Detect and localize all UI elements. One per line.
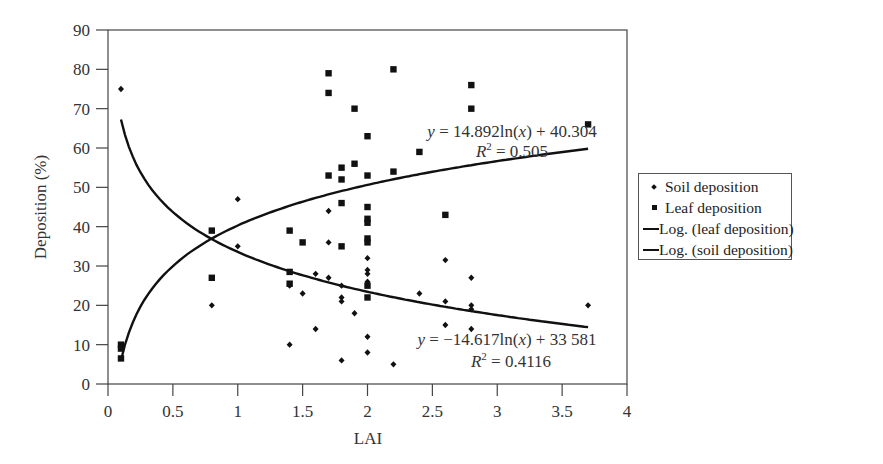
leaf-point — [325, 172, 331, 178]
leaf-point — [364, 220, 370, 226]
legend-label: Soil deposition — [665, 178, 758, 196]
soil-point — [313, 271, 319, 277]
soil-point — [326, 275, 332, 281]
x-tick-label: 2 — [363, 402, 372, 421]
soil-point — [365, 271, 371, 277]
leaf-point — [351, 161, 357, 167]
soil-point — [468, 275, 474, 281]
y-tick-label: 20 — [73, 296, 90, 315]
x-tick-label: 2.5 — [422, 402, 443, 421]
leaf-point — [338, 243, 344, 249]
soil-point — [390, 361, 396, 367]
leaf-point — [286, 227, 292, 233]
y-tick-label: 30 — [73, 257, 90, 276]
x-tick-label: 0.5 — [162, 402, 183, 421]
leaf-equation: y = 14.892ln(x) + 40.304 — [425, 122, 597, 141]
soil-point — [365, 349, 371, 355]
legend-label: Log. (soil deposition) — [659, 241, 793, 259]
soil-point — [326, 208, 332, 214]
legend-item-soil: Soil deposition — [643, 176, 791, 197]
leaf-point — [338, 200, 344, 206]
y-tick-label: 50 — [73, 178, 90, 197]
soil-point — [442, 257, 448, 263]
y-tick-label: 0 — [82, 375, 91, 394]
soil-point — [300, 290, 306, 296]
leaf-point — [364, 294, 370, 300]
legend-item-leaf: Leaf deposition — [643, 197, 791, 218]
soil-point — [365, 255, 371, 261]
leaf-point — [286, 281, 292, 287]
soil-point — [118, 86, 124, 92]
y-axis-title: Deposition (%) — [31, 155, 50, 259]
leaf-point — [364, 172, 370, 178]
leaf-point — [118, 355, 124, 361]
leaf-point — [325, 70, 331, 76]
leaf-point — [390, 168, 396, 174]
soil-equation: y = −14.617ln(x) + 33 581 — [416, 330, 597, 349]
x-tick-label: 4 — [623, 402, 632, 421]
leaf-point — [118, 345, 124, 351]
y-tick-label: 60 — [73, 139, 90, 158]
soil-point — [339, 357, 345, 363]
leaf-point — [286, 269, 292, 275]
soil-point — [416, 290, 422, 296]
x-axis-title: LAI — [354, 429, 383, 448]
leaf-point — [351, 105, 357, 111]
soil-point — [313, 326, 319, 332]
y-tick-label: 40 — [73, 218, 90, 237]
square-marker-icon — [643, 205, 665, 210]
y-tick-label: 10 — [73, 336, 90, 355]
soil-point — [209, 302, 215, 308]
leaf-point — [325, 90, 331, 96]
leaf-point — [209, 275, 215, 281]
line-marker-icon — [643, 228, 659, 230]
y-tick-label: 80 — [73, 60, 90, 79]
legend-label: Log. (leaf deposition) — [659, 220, 794, 238]
leaf-r-squared: R2 = 0.505 — [475, 140, 548, 161]
leaf-point — [468, 82, 474, 88]
soil-point — [365, 334, 371, 340]
leaf-point — [364, 282, 370, 288]
leaf-point — [299, 239, 305, 245]
leaf-point — [338, 176, 344, 182]
soil-point — [442, 322, 448, 328]
x-tick-label: 1 — [234, 402, 243, 421]
x-tick-label: 3.5 — [552, 402, 573, 421]
legend-item-log-leaf: Log. (leaf deposition) — [643, 218, 791, 239]
soil-point — [339, 298, 345, 304]
soil-point — [339, 282, 345, 288]
soil-point — [352, 310, 358, 316]
leaf-point — [442, 212, 448, 218]
data-points — [118, 66, 592, 367]
soil-point — [235, 243, 241, 249]
soil-point — [326, 239, 332, 245]
leaf-point — [468, 105, 474, 111]
x-tick-label: 0 — [104, 402, 113, 421]
x-tick-label: 1.5 — [292, 402, 313, 421]
legend-label: Leaf deposition — [665, 199, 762, 217]
soil-point — [235, 196, 241, 202]
legend-item-log-soil: Log. (soil deposition) — [643, 239, 791, 260]
trend-line — [121, 149, 588, 360]
legend: Soil deposition Leaf deposition Log. (le… — [638, 173, 792, 260]
soil-point — [287, 341, 293, 347]
leaf-point — [390, 66, 396, 72]
soil-r-squared: R2 = 0.4116 — [470, 350, 551, 371]
x-tick-label: 3 — [493, 402, 502, 421]
leaf-point — [364, 133, 370, 139]
leaf-point — [209, 227, 215, 233]
y-tick-label: 70 — [73, 100, 90, 119]
soil-point — [585, 302, 591, 308]
leaf-point — [364, 239, 370, 245]
line-marker-icon — [643, 249, 659, 251]
diamond-marker-icon — [643, 185, 665, 189]
leaf-point — [416, 149, 422, 155]
soil-point — [442, 298, 448, 304]
leaf-point — [338, 164, 344, 170]
y-tick-label: 90 — [73, 21, 90, 40]
leaf-point — [364, 204, 370, 210]
